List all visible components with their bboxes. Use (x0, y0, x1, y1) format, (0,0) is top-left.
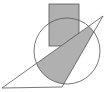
geometry-diagram (0, 0, 105, 92)
